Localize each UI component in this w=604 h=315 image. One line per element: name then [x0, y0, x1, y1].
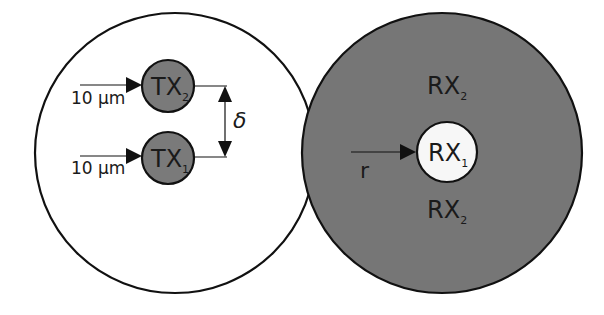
transmitter-panel: TX2 TX1 10 μm 10 μm δ — [35, 13, 315, 293]
diagram-canvas: TX2 TX1 10 μm 10 μm δ — [0, 0, 604, 315]
radius-label: r — [360, 158, 370, 183]
delta-label: δ — [233, 108, 246, 133]
tx1-node: TX1 — [142, 132, 194, 184]
tx1-size-label: 10 μm — [71, 158, 125, 178]
tx2-node: TX2 — [142, 60, 194, 112]
tx2-size-label: 10 μm — [71, 88, 125, 108]
receiver-panel: RX1 RX2 RX2 r — [302, 13, 582, 293]
